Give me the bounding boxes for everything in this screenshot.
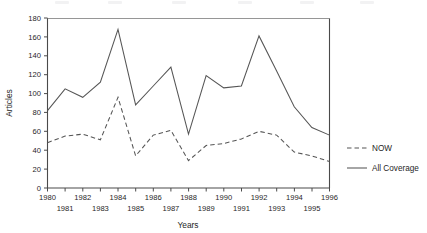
x-axis-tick-labels-odd: 1981 1983 1985 1987 1989 1991 1993 1995 (57, 204, 321, 213)
y-tick-label: 40 (33, 146, 41, 155)
series-line-all-coverage (48, 29, 330, 135)
x-tick-label: 1993 (268, 204, 285, 213)
x-tick-label: 1996 (321, 193, 338, 202)
x-tick-label: 1986 (145, 193, 162, 202)
y-tick-label: 180 (28, 14, 41, 23)
y-tick-label: 80 (33, 108, 41, 117)
y-tick-label: 100 (28, 89, 41, 98)
y-tick-label: 140 (28, 51, 41, 60)
x-tick-label: 1980 (39, 193, 56, 202)
x-tick-label: 1995 (304, 204, 321, 213)
x-tick-label: 1985 (127, 204, 144, 213)
x-tick-label: 1988 (180, 193, 197, 202)
x-tick-label: 1983 (92, 204, 109, 213)
y-tick-label: 160 (28, 33, 41, 42)
series-group (48, 29, 330, 161)
legend-label-all-coverage: All Coverage (372, 164, 419, 173)
x-tick-label: 1989 (198, 204, 215, 213)
y-tick-label: 0 (37, 184, 41, 193)
chart-figure: 0 20 40 60 80 100 120 140 160 180 (0, 0, 427, 233)
y-tick-label: 120 (28, 70, 41, 79)
chart-legend: NOW All Coverage (347, 144, 419, 173)
x-tick-label: 1992 (251, 193, 268, 202)
y-axis-title: Articles (4, 89, 14, 116)
line-chart-svg: 0 20 40 60 80 100 120 140 160 180 (0, 0, 427, 233)
legend-label-now: NOW (372, 144, 392, 153)
y-tick-label: 60 (33, 127, 41, 136)
plot-axes (48, 18, 331, 188)
x-tick-label: 1990 (215, 193, 232, 202)
x-tick-label: 1982 (74, 193, 91, 202)
x-tick-label: 1994 (286, 193, 303, 202)
series-line-now (48, 97, 330, 161)
y-axis-tick-labels: 0 20 40 60 80 100 120 140 160 180 (28, 14, 41, 193)
x-tick-label: 1991 (233, 204, 250, 213)
x-axis-tick-labels-even: 1980 1982 1984 1986 1988 1990 1992 1994 … (39, 193, 338, 202)
x-tick-label: 1987 (162, 204, 179, 213)
y-tick-label: 20 (33, 165, 41, 174)
x-tick-label: 1984 (110, 193, 127, 202)
x-tick-label: 1981 (57, 204, 74, 213)
x-axis-title: Years (177, 220, 198, 230)
